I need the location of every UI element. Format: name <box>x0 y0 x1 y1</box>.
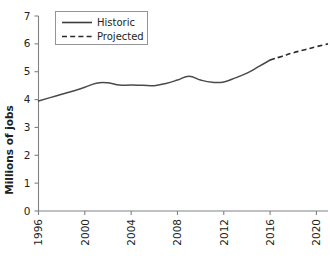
y-tick-label: 7 <box>24 10 31 22</box>
y-tick-label: 0 <box>24 205 31 217</box>
y-tick-label: 1 <box>24 177 31 189</box>
x-tick-label: 2000 <box>79 219 91 246</box>
y-tick-label: 4 <box>24 93 31 105</box>
x-tick-label: 2008 <box>171 219 183 246</box>
legend-label-projected: Projected <box>97 31 144 42</box>
series-line-projected <box>270 44 328 60</box>
chart-legend: Historic Projected <box>56 12 148 45</box>
chart-container: Millions of jobs 01234567 19962000200420… <box>0 0 330 256</box>
y-tick-label: 5 <box>24 65 31 77</box>
series-line-historic <box>39 60 271 101</box>
x-tick-label: 1996 <box>32 219 44 246</box>
y-tick-label: 2 <box>24 149 31 161</box>
y-axis-label: Millions of jobs <box>3 105 15 194</box>
x-axis-ticks: 1996200020042008201220162020 <box>32 211 322 246</box>
y-tick-label: 6 <box>24 37 31 49</box>
x-tick-label: 2020 <box>310 219 322 246</box>
x-tick-label: 2004 <box>125 219 137 246</box>
legend-label-historic: Historic <box>97 17 135 28</box>
x-tick-label: 2016 <box>264 219 276 246</box>
y-tick-label: 3 <box>24 121 31 133</box>
line-chart: Millions of jobs 01234567 19962000200420… <box>0 0 330 256</box>
y-axis-ticks: 01234567 <box>24 10 39 217</box>
x-tick-label: 2012 <box>218 219 230 246</box>
